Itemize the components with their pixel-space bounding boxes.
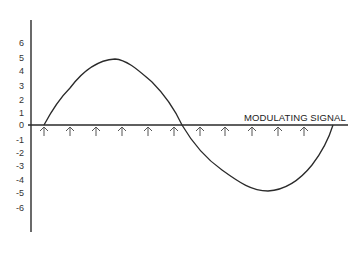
modulating-signal-diagram: 6 5 4 3 2 1 0 -1 -2 -3 -4 -5 -6 MODULATI…: [0, 0, 362, 270]
sampling-arrow-icon: [144, 127, 152, 136]
diagram-svg: [0, 0, 362, 270]
y-tick-label-5: 5: [4, 54, 24, 63]
sampling-arrow-icon: [92, 127, 100, 136]
sampling-arrows: [40, 127, 308, 136]
y-tick-label-neg2: -2: [4, 149, 24, 158]
sampling-arrow-icon: [170, 127, 178, 136]
sampling-arrow-icon: [66, 127, 74, 136]
y-tick-label-neg5: -5: [4, 189, 24, 198]
y-tick-label-6: 6: [4, 39, 24, 48]
y-tick-label-3: 3: [4, 82, 24, 91]
y-tick-label-1: 1: [4, 109, 24, 118]
y-tick-label-4: 4: [4, 67, 24, 76]
y-tick-label-neg6: -6: [4, 204, 24, 213]
y-tick-label-0: 0: [4, 121, 24, 130]
y-tick-label-neg1: -1: [4, 136, 24, 145]
sampling-arrow-icon: [118, 127, 126, 136]
sampling-arrow-icon: [196, 127, 204, 136]
y-tick-label-2: 2: [4, 96, 24, 105]
sampling-arrow-icon: [248, 127, 256, 136]
sampling-arrow-icon: [300, 127, 308, 136]
sampling-arrow-icon: [221, 127, 229, 136]
sampling-arrow-icon: [274, 127, 282, 136]
sampling-arrow-icon: [40, 127, 48, 136]
y-tick-label-neg4: -4: [4, 176, 24, 185]
modulating-signal-label: MODULATING SIGNAL: [244, 112, 346, 123]
y-tick-label-neg3: -3: [4, 162, 24, 171]
